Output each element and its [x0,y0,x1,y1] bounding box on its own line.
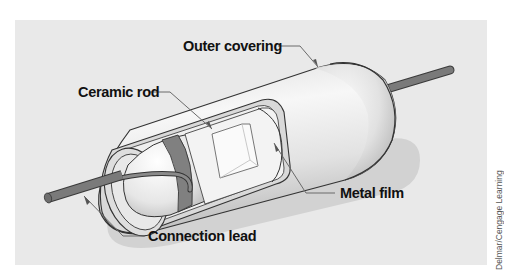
resistor-diagram: Outer covering Ceramic rod Metal film Co… [0,0,511,276]
label-outer-covering: Outer covering [183,38,282,54]
label-connection-lead: Connection lead [148,228,256,244]
image-credit: Delmar/Cengage Learning [489,150,509,270]
label-metal-film: Metal film [340,185,404,201]
label-ceramic-rod: Ceramic rod [78,84,159,100]
